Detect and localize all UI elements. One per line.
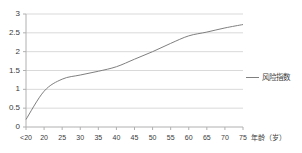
- legend-line-swatch: [246, 77, 259, 78]
- chart-legend: 风险指数: [246, 73, 290, 82]
- legend-label-risk-index: 风险指数: [262, 73, 290, 82]
- y-axis-tick-label: 2: [2, 47, 20, 56]
- y-axis-tick-label: 3: [2, 9, 20, 18]
- y-axis-tick-label: 0.5: [2, 103, 20, 112]
- gridlines: [26, 14, 243, 108]
- y-axis-tick-label: 1: [2, 84, 20, 93]
- y-axis-tick-label: 1.5: [2, 66, 20, 75]
- y-axis-tick-label: 2.5: [2, 28, 20, 37]
- x-axis-title: 年龄（岁）: [251, 133, 286, 142]
- series-line-risk-index: [26, 25, 243, 120]
- y-axis-tick-label: 0: [2, 122, 20, 131]
- risk-index-line-chart: 00.511.522.53 <2020253035404550556065707…: [0, 0, 302, 153]
